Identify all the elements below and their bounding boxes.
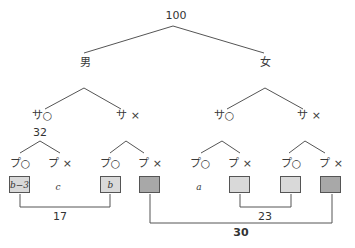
- cell-f-sn-pn: [320, 176, 341, 193]
- node-male: 男: [80, 57, 91, 69]
- edge-female-sa-no: [265, 88, 303, 109]
- cell-m-sy-py: b−3: [9, 176, 30, 193]
- edge-m-sy-pu-no: [40, 141, 60, 153]
- node-female-sa-no: サ ×: [297, 110, 321, 122]
- edge-m-sn-pu-no: [126, 141, 144, 153]
- cell-f-sy-py: a: [196, 181, 201, 193]
- edge-male-sa-no: [84, 88, 121, 109]
- bracket-17: [20, 194, 110, 207]
- edge-m-sy-pu-yes: [20, 141, 40, 153]
- edge-male-sa-yes: [45, 88, 84, 109]
- cell-f-sn-py: [280, 176, 301, 193]
- edge-f-sn-pu-yes: [289, 141, 305, 153]
- node-m-sy-pu-no: プ ×: [48, 158, 72, 170]
- node-male-sa-no: サ ×: [116, 110, 140, 122]
- edge-female-sa-yes: [227, 88, 265, 109]
- node-f-sn-pu-no: プ ×: [319, 158, 343, 170]
- edge-root-female: [173, 26, 264, 53]
- cell-m-sy-pn: c: [55, 181, 60, 193]
- cell-f-sy-pn: [229, 176, 250, 193]
- node-m-sy-pu-yes: プ○: [10, 158, 31, 170]
- node-f-sn-pu-yes: プ○: [281, 158, 302, 170]
- edge-f-sn-pu-no: [305, 141, 325, 153]
- cell-value: b−3: [10, 180, 29, 190]
- count-male-sa-yes: 32: [33, 127, 47, 139]
- edge-root-male: [84, 26, 173, 53]
- node-female-sa-yes: サ○: [214, 110, 235, 122]
- edge-f-sy-pu-no: [222, 141, 240, 153]
- cell-m-sn-pn: [139, 176, 160, 193]
- root-total: 100: [166, 10, 187, 22]
- bracket-30: [150, 194, 332, 223]
- cell-value: b: [108, 180, 114, 190]
- tree-diagram: 100 男 女 サ○ サ × サ○ サ × 32 プ○ プ × プ○ プ × プ…: [0, 0, 355, 248]
- bracket-label-17: 17: [53, 211, 67, 223]
- bracket-23: [240, 194, 291, 207]
- node-m-sn-pu-no: プ ×: [138, 158, 162, 170]
- node-f-sy-pu-no: プ ×: [228, 158, 252, 170]
- node-female: 女: [260, 57, 271, 69]
- bracket-label-30: 30: [233, 227, 248, 239]
- node-f-sy-pu-yes: プ○: [190, 158, 211, 170]
- node-m-sn-pu-yes: プ○: [100, 158, 121, 170]
- edge-f-sy-pu-yes: [201, 141, 222, 153]
- bracket-label-23: 23: [258, 211, 272, 223]
- edge-m-sn-pu-yes: [110, 141, 126, 153]
- cell-m-sn-py: b: [100, 176, 121, 193]
- node-male-sa-yes: サ○: [32, 110, 53, 122]
